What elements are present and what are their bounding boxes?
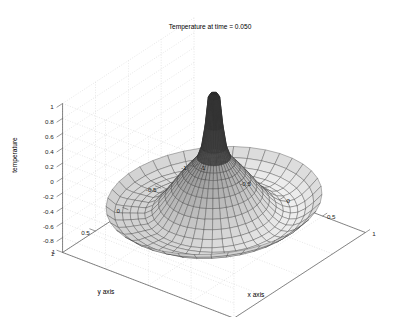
z-tick-label: 0.6 <box>45 133 54 140</box>
z-tick-label: -0.4 <box>43 208 54 215</box>
z-tick-label: 0.2 <box>45 163 54 170</box>
y-tick-label: 1 <box>52 248 56 255</box>
z-axis-label: temperature <box>11 137 19 173</box>
z-tick-label: -0.2 <box>43 193 54 200</box>
plot-title: Temperature at time = 0.050 <box>169 23 252 31</box>
y-tick-label: 0.5 <box>81 229 90 236</box>
y-tick-label: -1 <box>181 164 187 171</box>
surface-mesh <box>106 92 322 258</box>
x-tick-label: 0 <box>287 197 291 204</box>
x-tick-label: -0.5 <box>240 180 251 187</box>
z-tick-label: 0 <box>50 178 54 185</box>
matlab-figure-window: -1-0.500.51-1-0.500.51-0.8-0.6-0.4-0.200… <box>0 0 406 317</box>
surface-plot-axes: -1-0.500.51-1-0.500.51-0.8-0.6-0.4-0.200… <box>0 0 406 317</box>
x-tick-label: -1 <box>200 164 206 171</box>
y-tick-label: -0.5 <box>146 186 157 193</box>
x-axis-label: x axis <box>248 291 266 298</box>
y-axis-label: y axis <box>98 288 116 296</box>
z-tick-label: 0.4 <box>45 148 54 155</box>
z-tick-label: 1 <box>50 103 54 110</box>
z-tick-label: -0.6 <box>43 223 54 230</box>
z-tick-label: 0.8 <box>45 118 54 125</box>
z-tick-label: -0.8 <box>43 237 54 244</box>
y-tick-label: 0 <box>117 207 121 214</box>
x-tick-label: 0.5 <box>327 213 336 220</box>
x-tick-label: 1 <box>372 230 376 237</box>
